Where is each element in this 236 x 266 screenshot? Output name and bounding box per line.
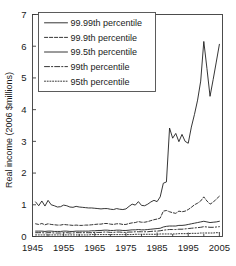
y-tick-label: 3 <box>21 136 26 147</box>
series-line-99-9th-percentile <box>36 196 220 225</box>
y-axis-title-group: Real income (2006 $millions) <box>4 72 14 188</box>
legend-label: 99th percentile <box>71 62 130 72</box>
x-tick-label: 1945 <box>22 242 43 253</box>
y-tick-label: 0 <box>21 231 26 242</box>
y-tick-label: 4 <box>21 104 26 115</box>
chart-canvas: Real income (2006 $millions) 01234567 19… <box>0 0 236 266</box>
x-tick-label: 1955 <box>53 242 74 253</box>
y-tick-label: 6 <box>21 41 26 52</box>
chart-legend: 99.99th percentile99.9th percentile99.5t… <box>39 13 156 92</box>
x-axis-tick-labels: 1945195519651975198519952005 <box>22 242 230 253</box>
x-tick-label: 1985 <box>147 242 168 253</box>
chart-figure: Real income (2006 $millions) 01234567 19… <box>0 0 236 266</box>
legend-label: 99.99th percentile <box>71 18 143 28</box>
x-tick-label: 2005 <box>209 242 230 253</box>
x-tick-label: 1995 <box>178 242 199 253</box>
y-axis-tick-labels: 01234567 <box>21 9 26 242</box>
series-line-99th-percentile <box>36 227 220 233</box>
y-tick-label: 7 <box>21 9 26 20</box>
x-tick-label: 1975 <box>115 242 136 253</box>
legend-label: 99.9th percentile <box>71 33 138 43</box>
x-tick-label: 1965 <box>84 242 105 253</box>
legend-label: 99.5th percentile <box>71 47 138 57</box>
y-axis-title: Real income (2006 $millions) <box>4 72 14 188</box>
y-tick-label: 1 <box>21 199 26 210</box>
y-tick-label: 2 <box>21 167 26 178</box>
series-line-99-5th-percentile <box>36 221 220 231</box>
y-tick-label: 5 <box>21 72 26 83</box>
legend-label: 95th percentile <box>71 77 130 87</box>
